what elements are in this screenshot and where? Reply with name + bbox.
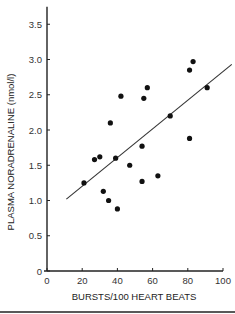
y-tick-label: 1.5 (29, 160, 42, 171)
x-tick-label: 60 (147, 275, 158, 286)
data-point (108, 120, 113, 125)
y-tick-label: 1.0 (29, 195, 42, 206)
data-point (127, 163, 132, 168)
data-point (139, 179, 144, 184)
data-point (101, 189, 106, 194)
y-tick-label: 3.5 (29, 19, 42, 30)
x-tick-label: 0 (44, 275, 49, 286)
data-point (113, 156, 118, 161)
data-point (190, 59, 195, 64)
data-point (145, 85, 150, 90)
y-tick-label: 0.5 (29, 230, 42, 241)
data-point (92, 157, 97, 162)
x-tick-label: 80 (183, 275, 194, 286)
data-point (97, 154, 102, 159)
regression-line (66, 64, 231, 199)
regression-line-path (66, 64, 231, 199)
x-tick-label: 100 (215, 275, 231, 286)
x-tick-label: 40 (112, 275, 123, 286)
data-point (168, 113, 173, 118)
y-axis: 00.51.01.52.02.53.03.5 (29, 7, 50, 277)
y-tick-label: 2.5 (29, 89, 42, 100)
data-point (141, 96, 146, 101)
data-point (139, 144, 144, 149)
data-point (187, 136, 192, 141)
data-point (115, 206, 120, 211)
y-tick-label: 0 (37, 266, 42, 277)
scatter-chart: 00.51.01.52.02.53.03.5 020406080100 PLAS… (0, 0, 235, 314)
data-point (118, 94, 123, 99)
y-tick-label: 3.0 (29, 54, 42, 65)
data-point (205, 85, 210, 90)
data-point (187, 67, 192, 72)
x-axis: 020406080100 (44, 268, 231, 286)
y-axis-label: PLASMA NORADRENALINE (nmol/l) (5, 74, 16, 231)
data-point (106, 198, 111, 203)
y-tick-label: 2.0 (29, 125, 42, 136)
x-tick-label: 20 (77, 275, 88, 286)
x-axis-label: BURSTS/100 HEART BEATS (72, 291, 197, 302)
data-point (155, 173, 160, 178)
data-point (81, 180, 86, 185)
